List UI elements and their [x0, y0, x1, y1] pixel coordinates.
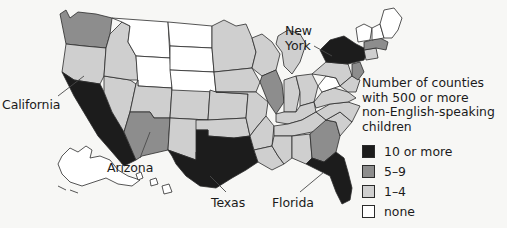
legend-swatch-5-9	[362, 165, 375, 178]
state-colorado	[170, 88, 210, 120]
legend-label-10-or-more: 10 or more	[384, 144, 452, 159]
state-vermont	[356, 24, 372, 42]
state-kansas	[208, 90, 248, 120]
label-florida: Florida	[272, 196, 314, 209]
label-new-york: New York	[285, 23, 312, 53]
state-wyoming	[136, 56, 172, 88]
legend-swatch-10-or-more	[362, 145, 375, 158]
leader-florida	[300, 172, 324, 192]
label-texas: Texas	[211, 196, 245, 209]
legend-title: Number of counties with 500 or more non-…	[362, 76, 507, 134]
legend-row-1-4: 1–4	[362, 183, 507, 200]
legend-label-none: none	[384, 204, 415, 219]
state-hawaii-3	[162, 184, 172, 194]
alaska-aleutians	[58, 186, 78, 193]
legend-row-5-9: 5–9	[362, 163, 507, 180]
state-hawaii-2	[150, 178, 158, 186]
label-arizona: Arizona	[107, 161, 153, 174]
map-legend: Number of counties with 500 or more non-…	[362, 76, 507, 223]
legend-row-10-or-more: 10 or more	[362, 143, 507, 160]
legend-label-5-9: 5–9	[384, 164, 406, 179]
legend-items: 10 or more 5–9 1–4 none	[362, 143, 507, 220]
state-maine	[380, 8, 402, 38]
state-washington	[60, 10, 112, 48]
legend-swatch-1-4	[362, 185, 375, 198]
legend-row-none: none	[362, 203, 507, 220]
state-minnesota	[212, 20, 256, 72]
legend-label-1-4: 1–4	[384, 184, 406, 199]
state-southdakota	[170, 46, 214, 72]
label-california: California	[2, 98, 60, 111]
map-figure: California Arizona Texas Florida New Yor…	[0, 0, 507, 228]
state-nebraska	[170, 70, 216, 92]
state-iowa	[214, 68, 260, 92]
state-alabama	[292, 134, 312, 164]
legend-swatch-none	[362, 205, 375, 218]
state-northdakota	[168, 22, 212, 48]
